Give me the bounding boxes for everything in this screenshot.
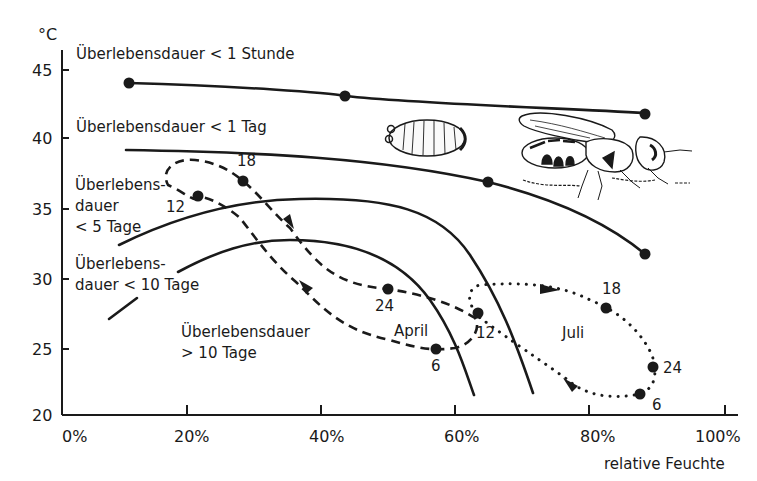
x-tick-40: 40% — [309, 427, 345, 446]
april-label-24: 24 — [375, 297, 394, 315]
fly-legs — [578, 168, 668, 200]
x-tick-20: 20% — [174, 427, 210, 446]
juli-label-6: 6 — [652, 396, 662, 414]
x-tick-100: 100% — [695, 427, 741, 446]
label-12-shared: 12 — [476, 324, 495, 342]
curve-1-hour — [129, 83, 645, 113]
zone-label-10d-2: dauer < 10 Tage — [75, 276, 199, 294]
april-arrow-up — [299, 280, 313, 294]
juli-arrow-left — [563, 378, 578, 392]
curve-10-days — [178, 240, 474, 395]
zone-label-5d-2: dauer — [75, 197, 119, 215]
x-tick-60: 60% — [444, 427, 480, 446]
x-axis-title: relative Feuchte — [604, 455, 725, 473]
y-tick-45: 45 — [32, 61, 52, 80]
zone-label-10d-1: Überlebens- — [75, 254, 166, 273]
zone-label-5d-1: Überlebens- — [75, 175, 166, 194]
curve-10-days-tail — [109, 298, 137, 319]
zone-label-gt10-2: > 10 Tage — [181, 344, 257, 362]
juli-label-24: 24 — [663, 359, 682, 377]
zone-label-5d-3: < 5 Tage — [75, 218, 141, 236]
juli-label: Juli — [561, 324, 584, 342]
april-label: April — [394, 322, 428, 340]
juli-label-18: 18 — [602, 280, 621, 298]
y-tick-40: 40 — [32, 129, 52, 148]
axes — [62, 50, 738, 415]
april-label-18: 18 — [237, 152, 256, 170]
april-label-6: 6 — [431, 357, 441, 375]
y-tick-25: 25 — [32, 340, 52, 359]
x-tick-80: 80% — [580, 427, 616, 446]
fly-antenna — [664, 150, 692, 152]
y-tick-20: 20 — [32, 406, 52, 425]
curve-5-days — [119, 199, 533, 393]
zone-label-1d: Überlebensdauer < 1 Tag — [76, 117, 267, 136]
zone-label-1h: Überlebensdauer < 1 Stunde — [76, 44, 295, 63]
y-tick-35: 35 — [32, 200, 52, 219]
x-tick-0: 0% — [62, 427, 87, 446]
pupa-illustration — [386, 120, 466, 156]
y-tick-30: 30 — [32, 270, 52, 289]
zone-label-gt10-1: Überlebensdauer — [181, 322, 311, 341]
y-unit-label: °C — [38, 25, 57, 44]
april-label-12: 12 — [166, 198, 185, 216]
chart: °C 45 40 35 30 25 20 0% 20% 40% 60% 80% … — [0, 0, 757, 481]
fly-head — [636, 137, 665, 170]
fly-illustration — [519, 113, 692, 200]
